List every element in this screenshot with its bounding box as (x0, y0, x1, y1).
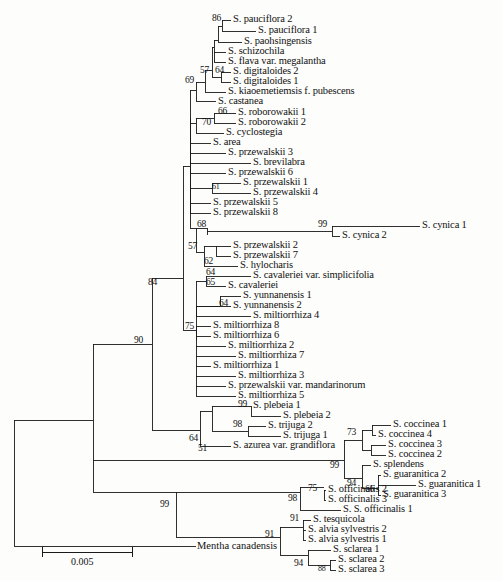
bootstrap-value: 64 (206, 268, 215, 277)
bootstrap-value: 91 (290, 514, 299, 523)
bootstrap-value: 94 (347, 479, 356, 488)
bootstrap-value: 64 (189, 434, 198, 443)
bootstrap-value: 94 (294, 559, 303, 568)
bootstrap-value: 99 (318, 220, 327, 229)
taxon-label: S. pauciflora 1 (258, 25, 317, 35)
scale-bar-label: 0.005 (71, 556, 94, 567)
bootstrap-value: 99 (160, 500, 169, 509)
bootstrap-value: 57 (188, 242, 197, 251)
bootstrap-value: 99 (330, 461, 339, 470)
taxon-label: S. cynica 1 (422, 220, 467, 230)
bootstrap-value: 75 (185, 322, 194, 331)
bootstrap-value: 88 (318, 564, 326, 573)
taxon-label: S. azurea var. grandiflora (233, 440, 335, 450)
bootstrap-value: 62 (204, 257, 213, 266)
taxon-label: S. pauciflora 2 (233, 14, 292, 24)
bootstrap-value: 66 (365, 485, 374, 494)
bootstrap-value: 91 (265, 530, 274, 539)
bootstrap-value: 90 (134, 336, 143, 345)
bootstrap-value: 99 (238, 400, 247, 409)
bootstrap-value: 64 (215, 66, 224, 75)
bootstrap-value: 51 (198, 444, 207, 453)
bootstrap-value: 75 (308, 484, 317, 493)
bootstrap-value: 86 (212, 14, 221, 23)
bootstrap-value: 70 (202, 118, 211, 127)
bootstrap-value: 66 (218, 107, 227, 116)
bootstrap-value: 57 (200, 66, 209, 75)
taxon-label: S. sclarea 3 (338, 564, 384, 574)
taxon-label: S. przewalskii 8 (213, 207, 278, 217)
bootstrap-value: 65 (206, 278, 215, 287)
bootstrap-value: 61 (212, 182, 220, 191)
bootstrap-value: 98 (288, 494, 297, 503)
bootstrap-value: 68 (197, 220, 206, 229)
bootstrap-value: 69 (185, 76, 194, 85)
outgroup-label: Mentha canadensis (197, 540, 277, 551)
bootstrap-value: 98 (233, 420, 242, 429)
taxon-label: S. castanea (218, 96, 263, 106)
phylogenetic-tree-figure: S. pauciflora 2 S. pauciflora 1 S. paohs… (0, 0, 503, 581)
bootstrap-value: 64 (219, 299, 228, 308)
taxon-label: S. guaranitica 3 (383, 489, 446, 499)
taxon-label: S. cynica 2 (342, 230, 387, 240)
bootstrap-value: 73 (347, 428, 356, 437)
bootstrap-value: 84 (148, 278, 157, 287)
